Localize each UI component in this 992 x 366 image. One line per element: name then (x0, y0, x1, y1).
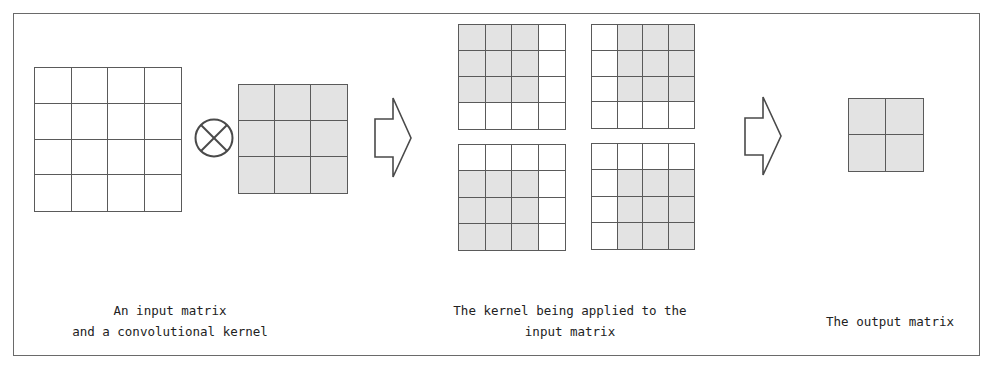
matrix-cell (311, 157, 347, 193)
matrix-cell (72, 140, 109, 176)
matrix-cell (459, 171, 486, 197)
kernel-application-top-left (458, 24, 566, 130)
matrix-cell (459, 145, 486, 171)
matrix-cell (539, 25, 566, 51)
matrix-cell (486, 25, 513, 51)
matrix-cell (486, 51, 513, 77)
matrix-cell (275, 157, 311, 193)
matrix-cell (643, 223, 669, 249)
matrix-cell (459, 51, 486, 77)
matrix-cell (669, 25, 695, 51)
matrix-cell (459, 224, 486, 250)
matrix-cell (886, 99, 923, 135)
matrix-cell (35, 140, 72, 176)
matrix-cell (886, 135, 923, 171)
matrix-cell (618, 170, 644, 196)
matrix-cell (539, 171, 566, 197)
matrix-cell (618, 77, 644, 103)
matrix-cell (539, 51, 566, 77)
matrix-cell (539, 145, 566, 171)
matrix-cell (643, 170, 669, 196)
matrix-cell (618, 223, 644, 249)
matrix-cell (108, 104, 145, 140)
matrix-cell (512, 25, 539, 51)
matrix-cell (643, 144, 669, 170)
matrix-cell (512, 51, 539, 77)
matrix-cell (669, 102, 695, 128)
matrix-cell (669, 144, 695, 170)
matrix-cell (539, 224, 566, 250)
caption-output: The output matrix (790, 311, 990, 332)
matrix-cell (145, 104, 182, 140)
matrix-cell (643, 51, 669, 77)
matrix-cell (592, 25, 618, 51)
matrix-cell (592, 223, 618, 249)
matrix-cell (643, 77, 669, 103)
right-arrow-icon (744, 96, 784, 178)
matrix-cell (486, 77, 513, 103)
kernel-application-bottom-right (591, 143, 695, 250)
matrix-cell (486, 103, 513, 129)
matrix-cell (459, 77, 486, 103)
matrix-cell (592, 170, 618, 196)
matrix-cell (512, 198, 539, 224)
input-matrix (34, 67, 182, 212)
matrix-cell (539, 198, 566, 224)
right-arrow-icon (374, 97, 414, 179)
matrix-cell (669, 223, 695, 249)
matrix-cell (618, 25, 644, 51)
matrix-cell (849, 135, 886, 171)
matrix-cell (592, 197, 618, 223)
matrix-cell (512, 171, 539, 197)
matrix-cell (539, 77, 566, 103)
matrix-cell (275, 121, 311, 157)
matrix-cell (592, 77, 618, 103)
matrix-cell (512, 145, 539, 171)
matrix-cell (72, 104, 109, 140)
matrix-cell (618, 102, 644, 128)
matrix-cell (108, 140, 145, 176)
kernel-application-bottom-left (458, 144, 566, 251)
matrix-cell (459, 25, 486, 51)
kernel-application-top-right (591, 24, 695, 129)
matrix-cell (669, 77, 695, 103)
matrix-cell (35, 175, 72, 211)
matrix-cell (311, 121, 347, 157)
matrix-cell (512, 77, 539, 103)
matrix-cell (486, 145, 513, 171)
matrix-cell (512, 103, 539, 129)
matrix-cell (618, 197, 644, 223)
matrix-cell (35, 104, 72, 140)
matrix-cell (239, 157, 275, 193)
matrix-cell (592, 144, 618, 170)
matrix-cell (669, 51, 695, 77)
matrix-cell (618, 144, 644, 170)
matrix-cell (35, 68, 72, 104)
matrix-cell (643, 25, 669, 51)
matrix-cell (459, 103, 486, 129)
caption-input: An input matrix and a convolutional kern… (40, 300, 300, 342)
matrix-cell (239, 85, 275, 121)
matrix-cell (618, 51, 644, 77)
matrix-cell (311, 85, 347, 121)
matrix-cell (512, 224, 539, 250)
matrix-cell (72, 175, 109, 211)
matrix-cell (459, 198, 486, 224)
matrix-cell (486, 224, 513, 250)
matrix-cell (108, 68, 145, 104)
matrix-cell (72, 68, 109, 104)
circled-times-icon (194, 118, 234, 158)
matrix-cell (643, 197, 669, 223)
output-matrix (848, 98, 924, 172)
matrix-cell (486, 171, 513, 197)
matrix-cell (592, 51, 618, 77)
matrix-cell (539, 103, 566, 129)
matrix-cell (592, 102, 618, 128)
matrix-cell (669, 170, 695, 196)
matrix-cell (275, 85, 311, 121)
matrix-cell (145, 175, 182, 211)
matrix-cell (239, 121, 275, 157)
matrix-cell (849, 99, 886, 135)
matrix-cell (145, 140, 182, 176)
matrix-cell (669, 197, 695, 223)
